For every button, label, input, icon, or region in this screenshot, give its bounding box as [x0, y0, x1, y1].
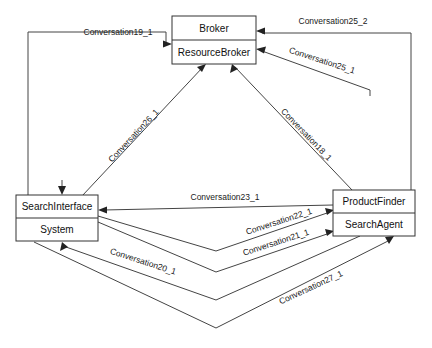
edge-conversation18-1-line — [235, 67, 352, 190]
edge-conversation27-1-label: Conversation27_1 — [277, 268, 344, 306]
edge-conversation19-1-arrowhead — [163, 41, 172, 48]
edge-conversation25-1-arrowhead — [256, 47, 266, 54]
edge-conversation20-1-arrowhead — [60, 242, 68, 251]
edge-conversation26-1-arrowhead — [197, 64, 206, 72]
edge-into-search-interface-top-arrowhead — [58, 186, 66, 195]
search-interface-node-top-label: SearchInterface — [22, 201, 93, 212]
edge-conversation25-2-arrowhead — [256, 28, 265, 35]
broker-node-bottom-label: ResourceBroker — [178, 47, 251, 58]
edge-conversation18-1-arrowhead — [230, 64, 238, 73]
edge-conversation27-1[interactable] — [34, 236, 394, 328]
edge-conversation27-1-line — [34, 240, 390, 328]
product-finder-node[interactable]: ProductFinder SearchAgent — [333, 190, 415, 236]
edge-conversation18-1-label: Conversation18_1 — [279, 106, 334, 163]
edge-into-search-interface-top — [58, 180, 66, 195]
edge-conversation25-2[interactable] — [256, 28, 411, 191]
broker-node[interactable]: Broker ResourceBroker — [172, 16, 256, 64]
product-finder-node-top-label: ProductFinder — [343, 196, 406, 207]
edge-conversation23-1-label: Conversation23_1 — [191, 192, 260, 202]
edge-conversation26-1-label: Conversation26_1 — [106, 107, 161, 164]
search-interface-node-bottom-label: System — [40, 224, 73, 235]
edge-conversation25-2-label: Conversation25_2 — [299, 16, 368, 26]
edge-conversation27-1-arrowhead — [385, 236, 394, 244]
edge-conversation18-1[interactable] — [230, 64, 352, 190]
collaboration-diagram-canvas: Conversation19_1 Conversation25_2 Conver… — [0, 0, 432, 348]
edge-conversation19-1-label: Conversation19_1 — [84, 27, 153, 37]
search-interface-node[interactable]: SearchInterface System — [16, 195, 98, 241]
edge-conversation25-1-label: Conversation25_1 — [288, 45, 357, 76]
diagram-svg: Conversation19_1 Conversation25_2 Conver… — [0, 0, 432, 348]
product-finder-node-bottom-label: SearchAgent — [345, 219, 403, 230]
edge-conversation20-1-label: Conversation20_1 — [109, 246, 178, 277]
edge-conversation23-1-arrowhead — [98, 207, 107, 214]
broker-node-top-label: Broker — [199, 23, 229, 34]
